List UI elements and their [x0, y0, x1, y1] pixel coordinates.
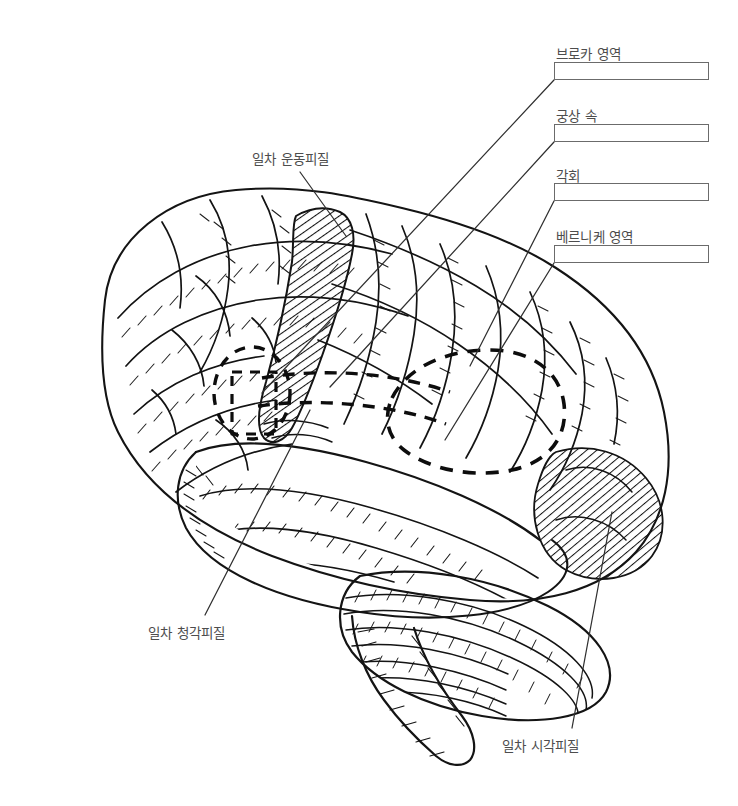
answer-box-arcuate-fasciculus[interactable] — [554, 124, 709, 142]
sylvian-fissure — [196, 443, 540, 540]
answer-box-brocas-area[interactable] — [554, 62, 709, 80]
brain-diagram — [0, 0, 738, 806]
label-brocas-area: 브로카 영역 — [556, 46, 622, 62]
leader-wernickes-area — [445, 263, 554, 440]
cerebral-sulci — [118, 196, 617, 492]
wernicke-outline — [388, 350, 565, 473]
leader-arcuate-fasciculus — [330, 142, 554, 387]
label-primary-auditory-cortex: 일차 청각피질 — [148, 625, 226, 641]
figure-page: 브로카 영역 궁상 속 각회 베르니케 영역 일차 운동피질 일차 청각피질 일… — [0, 0, 738, 806]
label-arcuate-fasciculus: 궁상 속 — [556, 108, 597, 124]
temporal-lobe-outline — [178, 452, 568, 618]
answer-box-wernickes-area[interactable] — [554, 245, 709, 263]
temporal-hatching — [184, 466, 482, 583]
label-wernickes-area: 베르니케 영역 — [556, 229, 634, 245]
primary-motor-cortex-shading — [240, 190, 380, 460]
label-primary-motor-cortex: 일차 운동피질 — [252, 151, 330, 167]
answer-box-angular-gyrus[interactable] — [554, 183, 709, 201]
label-angular-gyrus: 각회 — [556, 168, 580, 184]
label-primary-visual-cortex: 일차 시각피질 — [502, 738, 580, 754]
